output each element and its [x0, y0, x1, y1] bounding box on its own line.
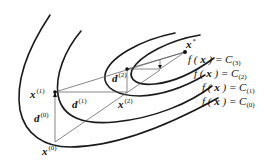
label-d1: d(1) [72, 98, 87, 110]
label-x0: x(0) [42, 145, 57, 157]
label-d0: d(0) [34, 112, 49, 124]
label-xstar: x* [186, 38, 196, 50]
point-xstar [183, 50, 187, 54]
optimization-diagram: x* x(1) x(2) x(0) d(0) d(1) d(2) f ( x )… [0, 0, 267, 164]
line-x0-extended [55, 70, 160, 142]
label-x2: x(2) [118, 98, 133, 110]
label-level-c0: f ( x ) = C(0) [202, 96, 255, 109]
label-level-c1: f ( x ) = C(1) [202, 82, 255, 95]
label-x1: x(1) [30, 88, 45, 100]
label-d2: d(2) [112, 72, 127, 84]
label-level-c3: f ( x ) = C(3) [188, 54, 241, 67]
label-level-c2: f ( x ) = C(2) [194, 68, 247, 81]
point-x1 [53, 90, 57, 94]
line-to-star-lower [160, 52, 185, 69]
